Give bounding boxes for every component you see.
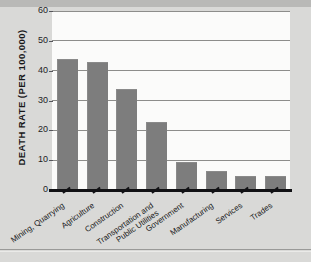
x-label-line: Services — [214, 201, 244, 226]
plot-area — [52, 11, 290, 190]
bar — [116, 89, 137, 190]
y-tick-label: 10 — [24, 155, 48, 164]
y-tick-label: 30 — [24, 96, 48, 105]
y-tick-mark — [49, 160, 53, 161]
x-axis-category-label: Trades — [249, 201, 274, 223]
y-tick-label: 20 — [24, 125, 48, 134]
bar — [87, 62, 108, 190]
y-tick-label: 50 — [24, 36, 48, 45]
x-axis-category-label: Services — [214, 201, 244, 226]
y-tick-mark — [49, 71, 53, 72]
footer-rule-highlight — [0, 251, 311, 252]
bar — [146, 122, 167, 190]
x-label-line: Mining, Quarrying — [9, 201, 66, 245]
y-tick-label: 60 — [24, 6, 48, 15]
y-tick-mark — [49, 11, 53, 12]
y-tick-mark — [49, 41, 53, 42]
x-axis-labels: Mining, QuarryingAgricultureConstruction… — [0, 190, 311, 258]
bars-group — [52, 11, 290, 190]
bar — [176, 162, 197, 190]
x-axis-category-label: Mining, Quarrying — [9, 201, 66, 245]
y-tick-label: 40 — [24, 66, 48, 75]
bar — [57, 59, 78, 190]
x-label-line: Trades — [249, 201, 274, 222]
footer-rule — [0, 249, 311, 250]
y-tick-mark — [49, 101, 53, 102]
y-tick-mark — [49, 130, 53, 131]
